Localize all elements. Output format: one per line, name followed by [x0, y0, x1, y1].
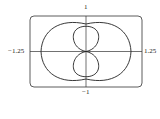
y-max-label: 1 — [84, 4, 88, 11]
x-min-label: −1.25 — [8, 48, 24, 55]
y-min-label: −1 — [82, 89, 89, 96]
x-max-label: 1.25 — [144, 48, 156, 55]
polar-plot — [0, 0, 160, 119]
